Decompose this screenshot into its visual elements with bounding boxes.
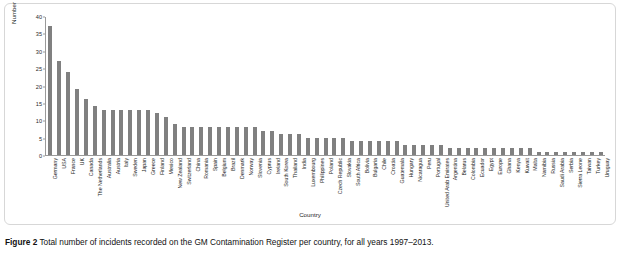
bar: [279, 134, 283, 155]
bar: [430, 145, 434, 155]
bar-item: [587, 17, 596, 155]
bar-item: [348, 17, 357, 155]
bar: [563, 152, 567, 155]
bar-item: [232, 17, 241, 155]
figure-caption: Figure 2 Total number of incidents recor…: [5, 236, 613, 248]
bar-item: [303, 17, 312, 155]
bar-item: [525, 17, 534, 155]
bar-item: [499, 17, 508, 155]
bar: [128, 110, 132, 155]
bar: [386, 141, 390, 155]
bar: [119, 110, 123, 155]
bar-item: [55, 17, 64, 155]
bar: [599, 152, 603, 155]
bar-series: [46, 17, 605, 155]
y-axis-tick-mark: [43, 69, 46, 70]
bar: [501, 148, 505, 155]
bar-item: [179, 17, 188, 155]
bar: [474, 148, 478, 155]
bar: [554, 152, 558, 155]
bar-item: [454, 17, 463, 155]
bar: [261, 131, 265, 155]
bar-item: [295, 17, 304, 155]
figure-caption-label: Figure 2: [5, 237, 37, 247]
bar-item: [366, 17, 375, 155]
bar-item: [161, 17, 170, 155]
bar-item: [286, 17, 295, 155]
bar: [421, 145, 425, 155]
y-axis-tick-mark: [43, 34, 46, 35]
bar: [190, 127, 194, 155]
bar: [155, 113, 159, 155]
bar-item: [410, 17, 419, 155]
bar: [350, 141, 354, 155]
bar: [315, 138, 319, 155]
bar: [537, 152, 541, 155]
bar-item: [330, 17, 339, 155]
bar: [146, 110, 150, 155]
bar: [439, 145, 443, 155]
bar: [244, 127, 248, 155]
bar-item: [543, 17, 552, 155]
bar: [528, 148, 532, 155]
bar: [457, 148, 461, 155]
x-axis-tick-label: Uruguay: [604, 158, 610, 178]
bar: [483, 148, 487, 155]
bar: [199, 127, 203, 155]
bar: [332, 138, 336, 155]
bar-item: [170, 17, 179, 155]
bar: [235, 127, 239, 155]
bar-item: [215, 17, 224, 155]
bar-item: [321, 17, 330, 155]
bar-item: [46, 17, 55, 155]
bar: [217, 127, 221, 155]
y-axis-tick-mark: [43, 86, 46, 87]
bar: [297, 134, 301, 155]
bar: [590, 152, 594, 155]
plot-area: Number of incidents 0510152025303540 Ger…: [5, 4, 615, 224]
x-axis-title: Country: [5, 211, 615, 218]
y-axis-tick-mark: [43, 121, 46, 122]
bar-item: [472, 17, 481, 155]
bar: [84, 99, 88, 155]
bar-item: [206, 17, 215, 155]
bar-item: [357, 17, 366, 155]
bar-item: [481, 17, 490, 155]
bar-item: [374, 17, 383, 155]
x-axis-line: [45, 155, 605, 156]
bar-item: [188, 17, 197, 155]
bar-item: [312, 17, 321, 155]
bar-item: [64, 17, 73, 155]
figure-caption-text: Total number of incidents recorded on th…: [39, 237, 433, 247]
bar: [66, 72, 70, 155]
figure-container: Number of incidents 0510152025303540 Ger…: [0, 0, 622, 269]
bar-item: [516, 17, 525, 155]
bar-item: [82, 17, 91, 155]
bar: [368, 141, 372, 155]
bar-item: [437, 17, 446, 155]
bar: [75, 89, 79, 155]
bar: [341, 138, 345, 155]
bar: [137, 110, 141, 155]
bar-item: [197, 17, 206, 155]
chart-axes: 0510152025303540: [45, 17, 605, 156]
bar-item: [108, 17, 117, 155]
bar: [377, 141, 381, 155]
bar: [403, 145, 407, 155]
bar: [510, 148, 514, 155]
y-axis-tick-mark: [43, 17, 46, 18]
bar-item: [117, 17, 126, 155]
bar: [519, 148, 523, 155]
bar: [288, 134, 292, 155]
bar-item: [90, 17, 99, 155]
bar: [324, 138, 328, 155]
bar: [581, 152, 585, 155]
bar-item: [596, 17, 605, 155]
bar: [102, 110, 106, 155]
bar: [448, 148, 452, 155]
bar: [466, 148, 470, 155]
bar-item: [268, 17, 277, 155]
y-axis-tick-mark: [43, 103, 46, 104]
bar-item: [570, 17, 579, 155]
bar-item: [135, 17, 144, 155]
